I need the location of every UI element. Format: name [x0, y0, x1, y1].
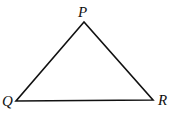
vertex-label-q: Q — [2, 94, 13, 109]
vertex-label-r: R — [158, 93, 167, 108]
triangle-diagram: P Q R — [0, 0, 195, 114]
vertex-label-p: P — [78, 5, 87, 20]
